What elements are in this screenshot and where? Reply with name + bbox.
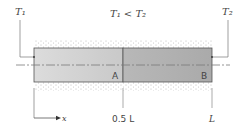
x-axis-arrowhead: [56, 116, 61, 120]
section-a-label: A: [112, 71, 119, 81]
t1-label: T₁: [15, 6, 26, 17]
title-inequality: T₁ < T₂: [110, 8, 146, 19]
end-label: L: [208, 114, 215, 124]
x-axis-label: x: [62, 114, 67, 123]
t1-contact-dot: [33, 56, 35, 58]
t2-contact-dot: [211, 56, 213, 58]
composite-rod-diagram: T₁ T₁ < T₂ T₂ A B x 0.5 L L: [0, 0, 243, 136]
insulation-top: [34, 40, 212, 48]
section-b-label: B: [201, 71, 207, 81]
t1-leader-line: [20, 20, 34, 57]
t2-leader-line: [212, 20, 228, 57]
midpoint-label: 0.5 L: [112, 114, 134, 124]
t2-label: T₂: [222, 6, 233, 17]
